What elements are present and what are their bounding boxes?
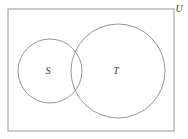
venn-diagram-canvas: S T U: [0, 0, 188, 139]
set-label-t: T: [113, 65, 120, 76]
set-label-s: S: [46, 65, 51, 76]
venn-diagram-figure: S T U: [0, 0, 188, 139]
universe-label-u: U: [175, 3, 183, 14]
universe-rectangle: [8, 9, 174, 131]
